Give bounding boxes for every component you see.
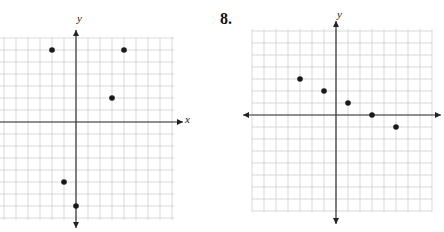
plot1-x-axis-label: x <box>185 113 190 125</box>
arrow-right-icon <box>435 112 441 118</box>
data-point <box>369 112 375 118</box>
arrow-left-icon <box>243 112 249 118</box>
arrow-down-icon <box>333 218 339 224</box>
chart-canvas <box>0 0 444 232</box>
data-point <box>121 47 127 53</box>
problem-number: 8. <box>220 10 232 28</box>
data-point <box>61 179 67 185</box>
data-point <box>345 100 351 106</box>
plot1-y-axis-label: y <box>77 12 82 24</box>
arrow-up-icon <box>73 30 79 36</box>
data-point <box>321 88 327 94</box>
data-point <box>49 47 55 53</box>
plot2-y-axis-label: y <box>337 8 342 20</box>
data-point <box>73 203 79 209</box>
arrow-right-icon <box>177 119 183 125</box>
arrow-down-icon <box>73 222 79 228</box>
data-point <box>393 124 399 130</box>
data-point <box>297 76 303 82</box>
arrow-up-icon <box>333 21 339 27</box>
data-point <box>109 95 115 101</box>
